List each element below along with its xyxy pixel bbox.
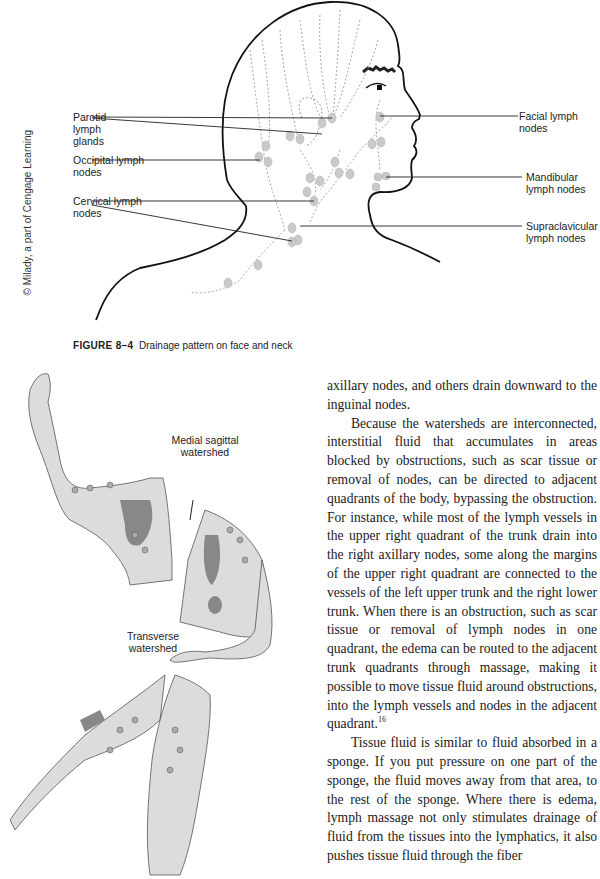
paragraph-1: axillary nodes, and others drain downwar…	[327, 377, 597, 415]
label-occipital-lymph-nodes: Occipital lymph nodes	[73, 154, 153, 178]
footnote-ref: 16	[378, 716, 386, 725]
label-medial-sagittal-watershed: Medial sagittal watershed	[160, 434, 250, 458]
label-transverse-line1: Transverse	[118, 630, 188, 642]
paragraph-3: Tissue fluid is similar to fluid absorbe…	[327, 734, 597, 866]
label-mandibular-lymph-nodes: Mandibular lymph nodes	[526, 171, 596, 195]
label-supraclavicular-lymph-nodes: Supraclavicular lymph nodes	[526, 220, 600, 244]
figure-number: FIGURE 8–4	[73, 340, 133, 351]
label-cervical-lymph-nodes: Cervical lymph nodes	[73, 195, 153, 219]
label-parotid-lymph-glands: Parotid lymph glands	[73, 111, 113, 147]
figure-watersheds: Medial sagittal watershed Transverse wat…	[0, 360, 320, 879]
image-credit: © Milady, a part of Cengage Learning	[22, 126, 33, 296]
label-medial-line2: watershed	[160, 446, 250, 458]
figure-caption: FIGURE 8–4 Drainage pattern on face and …	[73, 340, 292, 351]
label-medial-line1: Medial sagittal	[160, 434, 250, 446]
figure-caption-text: Drainage pattern on face and neck	[139, 340, 292, 351]
figure-face-neck: Parotid lymph glands Occipital lymph nod…	[0, 0, 600, 355]
paragraph-2-text: Because the watersheds are interconnecte…	[327, 416, 597, 732]
label-transverse-watershed: Transverse watershed	[118, 630, 188, 654]
label-transverse-line2: watershed	[118, 642, 188, 654]
paragraph-2: Because the watersheds are interconnecte…	[327, 415, 597, 735]
body-text-column: axillary nodes, and others drain downwar…	[327, 377, 597, 866]
label-facial-lymph-nodes: Facial lymph nodes	[519, 110, 599, 134]
